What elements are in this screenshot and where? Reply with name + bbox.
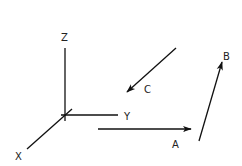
axes-group: Z Y X (15, 32, 131, 162)
vector-b: B (199, 51, 230, 141)
y-axis-label: Y (123, 111, 131, 122)
vector-c-label: C (144, 84, 151, 95)
vector-c-arrow (127, 48, 176, 92)
z-axis-label: Z (61, 32, 68, 43)
coordinate-diagram: Z Y X C A B (0, 0, 242, 166)
vector-c: C (127, 48, 176, 95)
vector-b-arrow (199, 62, 222, 141)
x-axis-line (27, 109, 72, 149)
vector-a-label: A (172, 139, 179, 150)
vector-a: A (98, 129, 191, 150)
vector-b-label: B (223, 51, 230, 62)
x-axis-label: X (15, 151, 22, 162)
